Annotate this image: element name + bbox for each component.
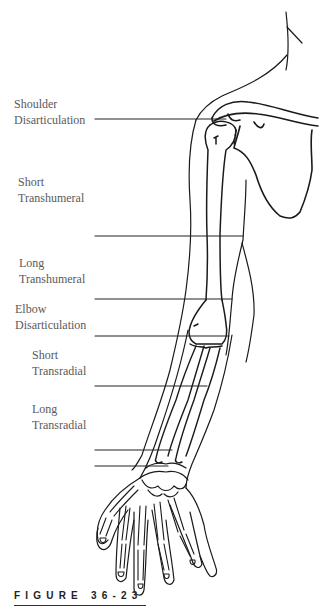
figure-caption: FIGURE 36-23 xyxy=(14,590,143,601)
humerus xyxy=(189,121,236,348)
upper-arm-outline xyxy=(132,120,254,470)
caption-underline xyxy=(14,605,146,606)
forearm-bones xyxy=(155,346,220,463)
arm-skeleton-illustration xyxy=(0,0,326,609)
carpals xyxy=(140,463,188,497)
hand-bones xyxy=(100,486,195,589)
neck-outline xyxy=(196,12,302,120)
